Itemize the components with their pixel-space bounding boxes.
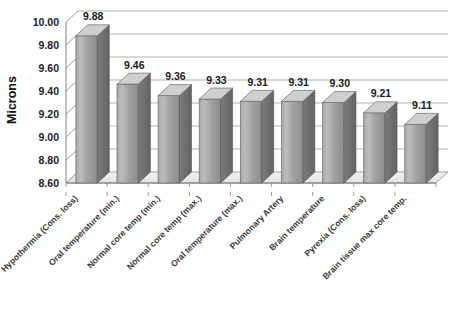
bar-side-face [385,102,397,183]
bar-front-face [405,124,426,183]
bar-value-label: 9.46 [124,59,145,71]
y-axis-tick-label: 9.00 [39,131,60,143]
bar-side-face [179,85,191,183]
y-axis-tick-label: 8.60 [39,177,60,189]
bar-column [117,73,150,183]
bar-side-face [221,88,233,183]
bar-column [76,25,109,183]
bar-front-face [158,96,179,183]
bar-front-face [281,101,302,183]
y-axis-title: Microns [5,76,19,124]
bar-front-face [76,36,97,183]
bar-column [240,90,273,183]
bar-front-face [240,101,261,183]
bar-column [364,102,397,183]
bar-value-label: 9.31 [288,76,309,88]
y-axis-tick-label: 9.40 [39,85,60,97]
bar-value-label: 9.31 [247,76,268,88]
bar-side-face [138,73,150,183]
bar-column [158,85,191,183]
bar-chart: Microns 10.009.809.609.409.209.008.808.6… [0,0,450,329]
bar-front-face [323,103,344,184]
bar-column [405,113,438,183]
y-axis-tick-label: 8.80 [39,154,60,166]
bar-value-label: 9.30 [330,77,351,89]
bar-front-face [199,99,220,183]
bar-side-face [426,113,438,183]
bar-value-label: 9.88 [83,10,104,22]
y-axis-tick-label: 10.00 [33,16,59,28]
bar-column [199,88,232,183]
chart-container: Microns 10.009.809.609.409.209.008.808.6… [0,0,450,329]
bar-column [323,92,356,184]
bar-value-label: 9.33 [206,74,227,86]
bar-side-face [97,25,109,183]
y-axis-tick-label: 9.80 [39,39,60,51]
bar-value-label: 9.36 [165,70,186,82]
bar-side-face [262,90,274,183]
y-axis-title-text: Microns [5,76,19,124]
y-axis-tick-label: 9.20 [39,108,60,120]
bar-side-face [344,92,356,184]
bar-side-face [303,90,315,183]
bar-front-face [364,113,385,183]
bar-column [281,90,314,183]
bar-value-label: 9.21 [371,87,392,99]
y-axis-tick-label: 9.60 [39,62,60,74]
bar-value-label: 9.11 [412,99,432,111]
bar-front-face [117,84,138,183]
